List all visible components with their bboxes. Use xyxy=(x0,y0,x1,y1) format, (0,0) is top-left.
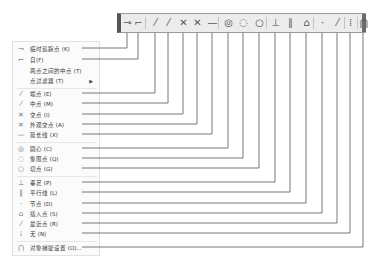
connector-line xyxy=(82,33,275,182)
connector-line xyxy=(82,33,155,93)
connector-line xyxy=(82,33,197,124)
connector-line xyxy=(82,33,322,213)
connector-line xyxy=(82,33,127,48)
connector-line xyxy=(82,33,337,223)
connector-line xyxy=(82,33,363,247)
connector-line xyxy=(82,33,243,158)
connector-line xyxy=(82,33,138,59)
connector-line xyxy=(82,33,306,203)
connector-lines xyxy=(0,0,384,267)
